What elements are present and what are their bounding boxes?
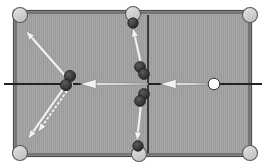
pocket-top-left[interactable] [13, 8, 28, 23]
object-ball-center-lower-b[interactable] [135, 96, 146, 107]
object-ball-top-pocket[interactable] [128, 18, 138, 28]
object-ball-bottom-pocket[interactable] [133, 141, 143, 151]
pocket-bottom-left[interactable] [13, 146, 28, 161]
pocket-bottom-right[interactable] [243, 146, 258, 161]
pocket-top-right[interactable] [243, 8, 258, 23]
diagram-canvas [0, 0, 268, 166]
arrow-cue-horizontal-left-shaft [176, 83, 210, 85]
object-ball-center-upper-b[interactable] [139, 69, 150, 80]
object-ball-left-lower[interactable] [60, 79, 71, 90]
cue-ball[interactable] [208, 78, 220, 90]
billiards-table-diagram [0, 0, 268, 166]
arrow-center-horizontal-left-shaft [96, 83, 148, 85]
